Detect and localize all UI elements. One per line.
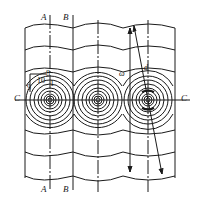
wavefront-bottom-3 xyxy=(25,176,175,181)
arrow-head-3 xyxy=(128,166,132,172)
annotation-8: 8 xyxy=(46,70,50,78)
arrow-head-2 xyxy=(133,26,136,32)
annotation-9: 9 xyxy=(27,84,31,92)
annotation-omega: ω xyxy=(119,70,125,78)
arrow-head-1 xyxy=(128,28,132,34)
label-a-bottom: A xyxy=(41,185,47,194)
wavefront-bottom-2 xyxy=(25,152,175,157)
wavefront-top-2 xyxy=(25,45,175,50)
label-c-left: C xyxy=(14,94,20,103)
label-c-right: C xyxy=(181,94,187,103)
annotation-10: 10 xyxy=(37,77,45,85)
annotation-d: d xyxy=(144,64,148,72)
interference-diagram xyxy=(0,0,201,204)
arrow-head-4 xyxy=(159,168,163,174)
annotation-1: 1 xyxy=(50,80,54,88)
label-b-top: B xyxy=(63,13,69,22)
label-a-top: A xyxy=(41,13,47,22)
wavefront-bottom-1 xyxy=(25,130,175,135)
label-b-bottom: B xyxy=(63,185,69,194)
wavefront-top-1 xyxy=(25,23,175,28)
